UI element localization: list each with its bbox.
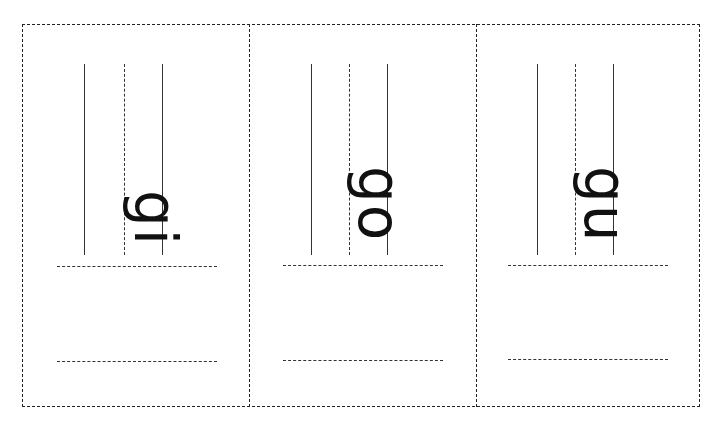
card-divider-1 (249, 24, 250, 407)
cut-line-upper (283, 265, 443, 266)
card-divider-2 (476, 24, 477, 407)
cut-line-lower (283, 360, 443, 361)
guide-line-baseline (311, 64, 312, 255)
card-word: go (350, 166, 408, 242)
guide-line-baseline (537, 64, 538, 255)
card-word: gi (126, 190, 184, 247)
cut-line-lower (57, 361, 217, 362)
cut-line-upper (508, 265, 668, 266)
guide-line-baseline (84, 64, 85, 255)
cut-line-lower (508, 359, 668, 360)
cut-line-upper (57, 266, 217, 267)
card-word: gu (576, 166, 634, 244)
